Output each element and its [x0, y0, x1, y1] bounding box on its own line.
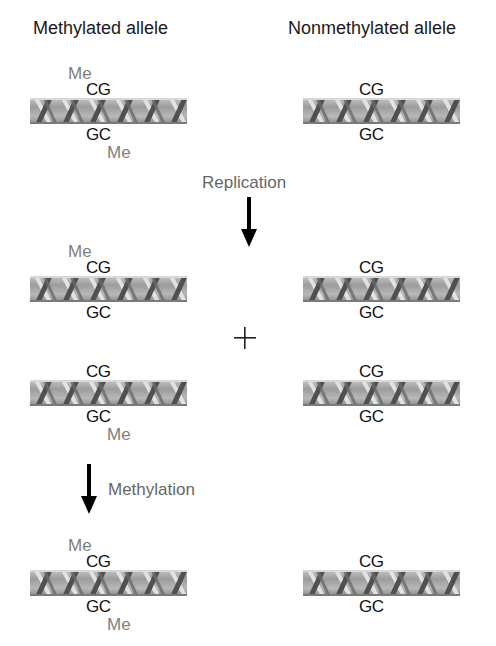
cg-base-label: CG: [86, 259, 111, 277]
dna-helix-methylated: [30, 98, 187, 124]
methyl-label-bottom: Me: [107, 616, 131, 634]
dna-helix-methylated: [30, 380, 187, 406]
cg-base-label: CG: [86, 363, 111, 381]
dna-helix-nonmethylated: [303, 380, 460, 406]
down-arrow-icon: [241, 197, 257, 247]
gc-base-label: GC: [359, 598, 384, 616]
nonmethylated-allele-header: Nonmethylated allele: [288, 18, 456, 38]
cg-base-label: CG: [86, 81, 111, 99]
gc-base-label: GC: [86, 598, 111, 616]
dna-helix-nonmethylated: [303, 276, 460, 302]
gc-base-label: GC: [86, 408, 111, 426]
methyl-label-bottom: Me: [107, 144, 131, 162]
dna-helix-nonmethylated: [303, 98, 460, 124]
methylation-label: Methylation: [108, 481, 195, 499]
methyl-label-bottom: Me: [107, 426, 131, 444]
replication-label: Replication: [202, 174, 286, 192]
cg-base-label: CG: [86, 553, 111, 571]
plus-icon: [234, 327, 256, 349]
cg-base-label: CG: [359, 553, 384, 571]
cg-base-label: CG: [359, 81, 384, 99]
gc-base-label: GC: [86, 126, 111, 144]
gc-base-label: GC: [359, 408, 384, 426]
dna-helix-methylated: [30, 276, 187, 302]
dna-helix-methylated: [30, 570, 187, 596]
gc-base-label: GC: [359, 126, 384, 144]
dna-helix-nonmethylated: [303, 570, 460, 596]
cg-base-label: CG: [359, 363, 384, 381]
down-arrow-icon: [81, 464, 97, 514]
gc-base-label: GC: [359, 304, 384, 322]
gc-base-label: GC: [86, 304, 111, 322]
cg-base-label: CG: [359, 259, 384, 277]
methylated-allele-header: Methylated allele: [33, 18, 168, 38]
